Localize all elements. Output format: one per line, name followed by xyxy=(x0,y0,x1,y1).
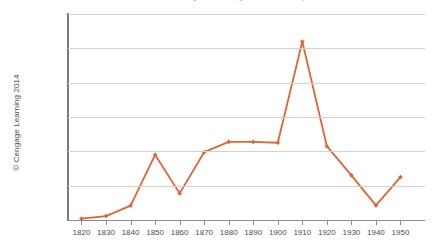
gridline xyxy=(68,117,425,118)
data-point-marker xyxy=(300,39,305,44)
x-axis-tick-mark xyxy=(81,221,82,225)
x-axis-tick-mark xyxy=(327,221,328,225)
x-axis-tick-mark xyxy=(351,221,352,225)
x-axis-line xyxy=(67,220,425,221)
gridline xyxy=(68,83,425,84)
series-markers xyxy=(79,39,403,221)
x-axis-tick-mark xyxy=(131,221,132,225)
x-axis-tick-mark xyxy=(155,221,156,225)
series-polyline xyxy=(81,41,400,218)
chart-figure: Number of Immigrants Entering the United… xyxy=(0,0,434,247)
x-axis-tick-mark xyxy=(204,221,205,225)
x-axis-tick-mark xyxy=(253,221,254,225)
x-axis-tick-mark xyxy=(376,221,377,225)
x-axis-tick-mark xyxy=(400,221,401,225)
data-point-marker xyxy=(275,140,280,145)
data-point-marker xyxy=(251,140,256,145)
chart-title: Number of Immigrants Entering the United… xyxy=(95,0,385,1)
x-axis-tick-mark xyxy=(180,221,181,225)
gridline xyxy=(68,14,425,15)
x-axis-tick-mark xyxy=(106,221,107,225)
x-axis-tick-label: 1950 xyxy=(380,228,420,237)
gridline xyxy=(68,151,425,152)
plot-area xyxy=(68,14,425,220)
gridline xyxy=(68,186,425,187)
gridline xyxy=(68,48,425,49)
copyright-notice: © Cengage Learning 2014 xyxy=(12,53,21,193)
x-axis-tick-mark xyxy=(229,221,230,225)
x-axis-tick-mark xyxy=(278,221,279,225)
x-axis-tick-mark xyxy=(302,221,303,225)
